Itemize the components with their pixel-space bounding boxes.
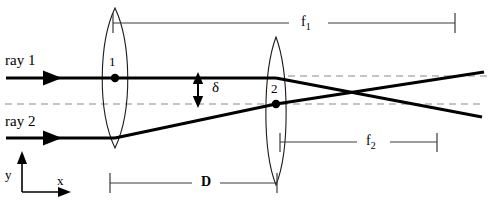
f1-label: f1: [298, 15, 314, 32]
delta-label: δ: [212, 80, 219, 95]
optics-ray-diagram-figure: ray 1 ray 2 1 2 δ f1 f2 D y x: [0, 0, 494, 210]
lens-2-number-label: 2: [271, 82, 278, 95]
lens-2: [266, 37, 286, 185]
y-axis-label: y: [5, 168, 12, 181]
delta-arrowhead-down-icon: [193, 96, 203, 108]
lens-1-number-label: 1: [109, 55, 116, 68]
ray-2-between-lenses: [115, 104, 276, 138]
y-axis-arrowhead-icon: [17, 151, 27, 164]
ray-2-path: [6, 72, 484, 146]
f2-label: f2: [363, 134, 379, 151]
lens-2-outline: [266, 37, 286, 185]
ray-2-label: ray 2: [5, 114, 35, 129]
x-axis-label: x: [57, 174, 64, 187]
diagram-canvas: [0, 0, 494, 210]
dimension-f2: [280, 133, 437, 152]
lens-1-center-dot: [111, 74, 119, 82]
f2-label-subscript: 2: [371, 140, 376, 151]
ray-1-arrowhead-icon: [43, 71, 62, 86]
dimension-D: [110, 173, 277, 193]
x-axis-arrowhead-icon: [58, 187, 71, 197]
D-label: D: [198, 175, 214, 189]
dashed-reference-lines: [5, 76, 492, 104]
ray-2-arrowhead-icon: [43, 131, 62, 146]
lens-2-center-dot: [272, 100, 280, 108]
ray-1-label: ray 1: [5, 53, 35, 68]
ray-1-output: [276, 78, 482, 117]
dimension-f1: [113, 13, 455, 33]
f1-label-subscript: 1: [306, 21, 311, 32]
